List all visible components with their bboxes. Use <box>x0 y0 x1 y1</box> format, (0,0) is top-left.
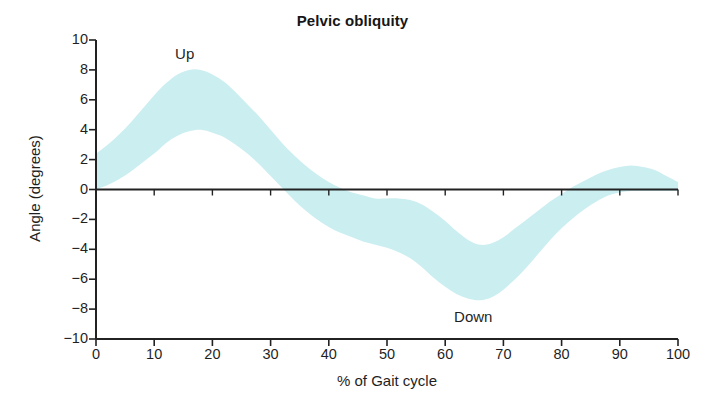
x-axis-tick-marks <box>96 339 678 346</box>
normal-range-band <box>96 69 678 300</box>
data-band-group <box>96 69 678 300</box>
plot-area <box>0 0 705 411</box>
chart-figure: Pelvic obliquity Angle (degrees) % of Ga… <box>0 0 705 411</box>
y-axis-tick-marks <box>89 40 96 339</box>
